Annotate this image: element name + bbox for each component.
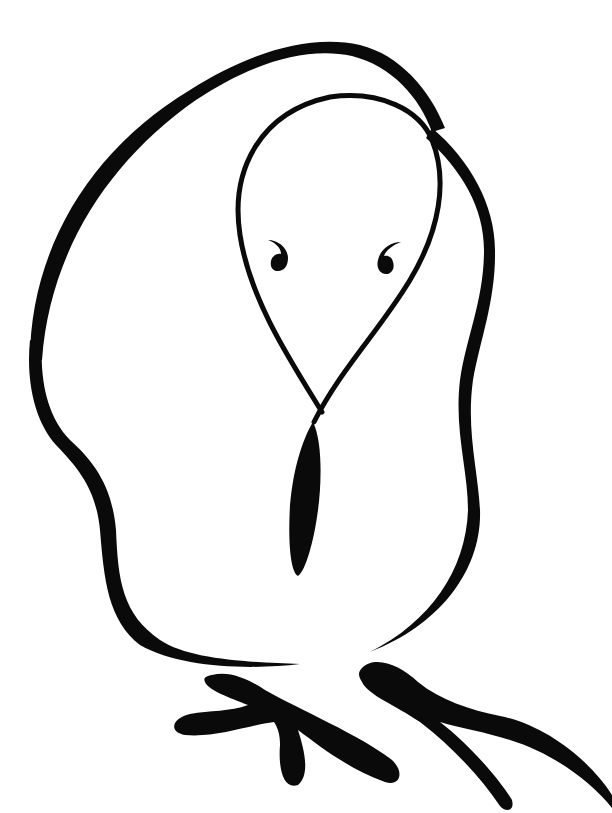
illustration-canvas: Line drawing of a bird	[0, 0, 612, 813]
right-foot	[359, 662, 612, 810]
bird-drawing	[0, 0, 612, 813]
right-eye	[377, 242, 401, 274]
left-foot	[174, 674, 399, 786]
head-loop	[238, 96, 440, 422]
beak	[289, 422, 320, 576]
left-eye	[268, 240, 288, 271]
